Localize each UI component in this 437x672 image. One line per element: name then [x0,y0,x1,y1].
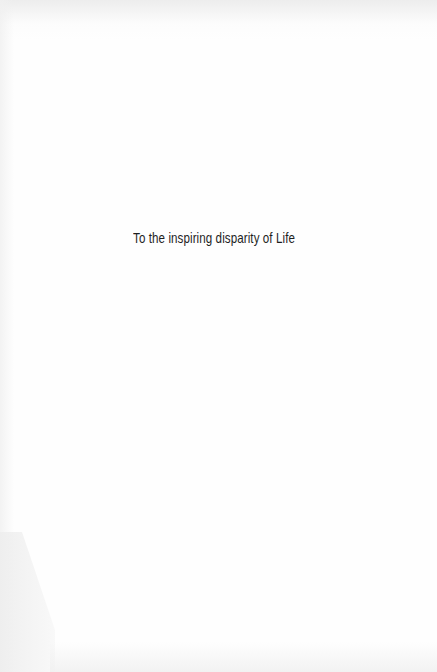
scan-shadow-corner [0,532,55,672]
dedication-text: To the inspiring disparity of Life [133,229,293,247]
scan-shadow-bottom [50,642,437,672]
scan-shadow-top [0,0,437,40]
book-page: To the inspiring disparity of Life [0,0,437,672]
